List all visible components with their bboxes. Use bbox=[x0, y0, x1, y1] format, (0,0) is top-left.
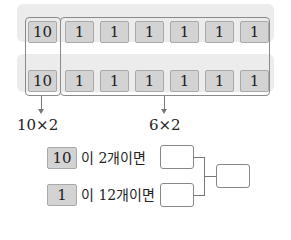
bracket-mid bbox=[204, 176, 216, 177]
ones-block: 1 bbox=[135, 70, 164, 92]
tens-arrowhead bbox=[38, 109, 44, 114]
bracket-bottom bbox=[194, 195, 204, 196]
ones-block: 1 bbox=[205, 21, 234, 43]
ones-block: 1 bbox=[135, 21, 164, 43]
bracket-top bbox=[194, 157, 204, 158]
ones-block: 1 bbox=[170, 70, 199, 92]
answer-box-total[interactable] bbox=[216, 164, 250, 188]
ones-block: 1 bbox=[65, 21, 94, 43]
ones-block: 1 bbox=[170, 21, 199, 43]
statement-ones-text: 이 12개이면 bbox=[81, 184, 155, 206]
ones-block: 1 bbox=[205, 70, 234, 92]
ones-arrowhead bbox=[161, 109, 167, 114]
ones-block: 1 bbox=[240, 70, 269, 92]
tens-block: 10 bbox=[28, 70, 57, 92]
tens-block: 10 bbox=[28, 21, 57, 43]
ones-block: 1 bbox=[100, 70, 129, 92]
ones-arrow-line bbox=[164, 96, 165, 110]
answer-box-tens[interactable] bbox=[160, 145, 194, 169]
tens-arrow-line bbox=[41, 96, 42, 110]
ones-block: 1 bbox=[240, 21, 269, 43]
ones-label: 6×2 bbox=[149, 116, 181, 134]
ones-block: 1 bbox=[65, 70, 94, 92]
answer-box-ones[interactable] bbox=[160, 183, 194, 207]
statement-ones-unit: 1 bbox=[47, 184, 77, 206]
tens-label: 10×2 bbox=[17, 116, 58, 134]
statement-tens-text: 이 2개이면 bbox=[81, 147, 146, 169]
statement-tens-unit: 10 bbox=[47, 147, 77, 169]
ones-block: 1 bbox=[100, 21, 129, 43]
